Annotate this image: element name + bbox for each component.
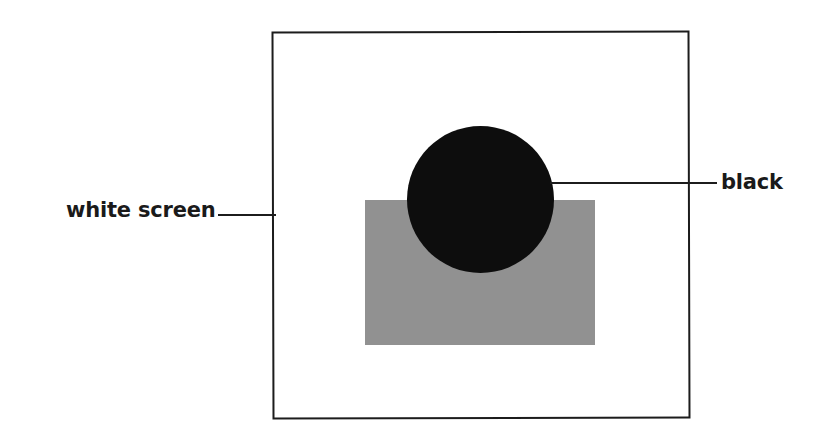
black-circle <box>407 126 554 273</box>
leader-line-white-screen <box>218 214 276 216</box>
callout-label-white-screen: white screen <box>66 200 215 221</box>
callout-label-black: black <box>721 172 783 193</box>
figure-canvas: white screen black <box>0 0 835 438</box>
leader-line-black <box>550 182 717 184</box>
